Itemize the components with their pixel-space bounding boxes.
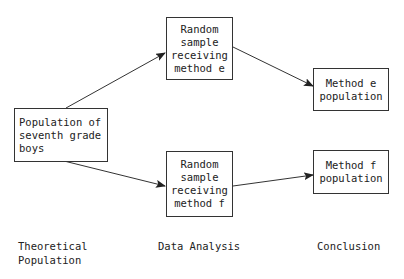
sample-e-line-2: sample [181,36,219,49]
result-f-node: Method f population [313,150,389,194]
stage-label-conclusion: Conclusion [317,239,380,253]
sample-f-line-1: Random [181,158,219,171]
result-e-line-1: Method e [326,77,377,90]
result-f-line-1: Method f [326,159,377,172]
sample-f-line-3: receiving [171,184,228,197]
stage-label-analysis: Data Analysis [158,239,240,253]
stage-label-theoretical-line-2: Population [18,253,88,267]
sample-f-node: Random sample receiving method f [166,151,233,217]
stage-label-analysis-line-1: Data Analysis [158,239,240,253]
sample-f-line-2: sample [181,171,219,184]
arrow-sample-e-to-result-e [233,47,313,86]
sample-e-line-4: method e [174,62,225,75]
arrow-population-to-sample-f [64,161,165,186]
sample-e-line-3: receiving [171,49,228,62]
sample-e-line-1: Random [181,23,219,36]
arrow-population-to-sample-e [66,53,165,108]
stage-label-conclusion-line-1: Conclusion [317,239,380,253]
population-line-1: Population of [19,116,107,129]
population-node: Population of seventh grade boys [14,108,108,162]
sample-e-node: Random sample receiving method e [166,17,233,80]
stage-label-theoretical: Theoretical Population [18,239,88,267]
result-e-node: Method e population [313,68,389,111]
arrow-sample-f-to-result-f [233,175,313,186]
population-line-3: boys [19,142,107,155]
stage-label-theoretical-line-1: Theoretical [18,239,88,253]
sample-f-line-4: method f [174,197,225,210]
result-e-line-2: population [319,90,382,103]
result-f-line-2: population [319,172,382,185]
population-line-2: seventh grade [19,129,107,142]
